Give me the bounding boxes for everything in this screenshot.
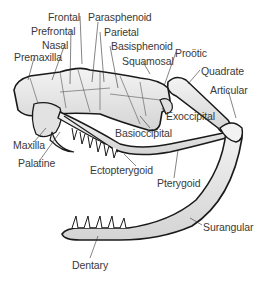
label-basisphenoid: Basisphenoid	[111, 41, 173, 52]
label-nasal: Nasal	[42, 40, 68, 51]
label-surangular: Surangular	[203, 222, 253, 233]
label-frontal: Frontal	[48, 12, 80, 23]
dentary-teeth	[72, 216, 126, 228]
label-exoccipital: Exoccipital	[166, 111, 215, 122]
label-parietal: Parietal	[104, 27, 139, 38]
label-prootic: Proötic	[175, 48, 207, 59]
label-premaxilla: Premaxilla	[14, 52, 62, 63]
label-palatine: Palatine	[18, 158, 55, 169]
label-prefrontal: Prefrontal	[31, 26, 76, 37]
maxilla-shape	[32, 103, 61, 137]
label-dentary: Dentary	[72, 260, 108, 271]
label-ectopterygoid: Ectopterygoid	[90, 165, 153, 176]
label-articular: Articular	[210, 85, 248, 96]
label-pterygoid: Pterygoid	[157, 178, 200, 189]
snake-skull-diagram: Frontal Prefrontal Nasal Premaxilla Para…	[0, 0, 258, 281]
label-squamosal: Squamosal	[122, 56, 174, 67]
label-basioccipital: Basioccipital	[115, 128, 172, 139]
label-parasphenoid: Parasphenoid	[88, 12, 152, 23]
label-quadrate: Quadrate	[201, 66, 244, 77]
label-maxilla: Maxilla	[13, 140, 45, 151]
